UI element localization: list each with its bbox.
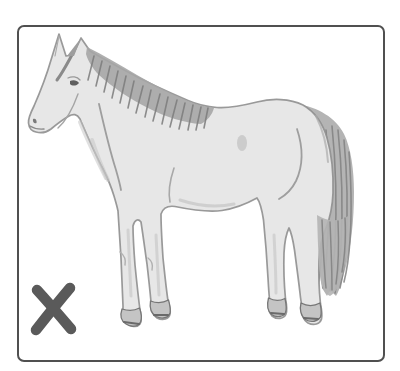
horse-body: [28, 34, 333, 326]
hoof-bottom-line: [271, 313, 284, 314]
horse-tail-front: [317, 215, 350, 296]
screenshot-root: [0, 0, 400, 371]
horse-illustration: [0, 0, 400, 371]
x-mark-icon: [36, 288, 71, 330]
horse-hooves: [121, 298, 321, 326]
body-silhouette: [28, 34, 333, 326]
hoof-bottom-line: [304, 318, 318, 319]
body-smudge: [237, 135, 247, 151]
